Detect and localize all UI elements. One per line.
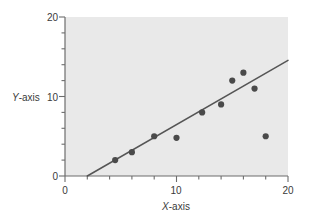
plot-area-background	[65, 17, 288, 176]
x-axis-ticks	[65, 176, 288, 182]
data-point	[240, 70, 246, 76]
chart-canvas: 20 10 0 0 10 20 Y-axis X-axis	[0, 0, 309, 221]
data-point	[199, 109, 205, 115]
data-point	[218, 101, 224, 107]
data-point	[229, 78, 235, 84]
y-tick-label-mid: 10	[47, 92, 59, 103]
data-point	[151, 133, 157, 139]
y-axis-title: Y-axis	[12, 92, 40, 103]
y-tick-label-top: 20	[47, 12, 59, 23]
data-point	[251, 85, 257, 91]
x-tick-label-mid: 10	[170, 185, 182, 196]
data-point	[263, 133, 269, 139]
scatter-chart-figure: 20 10 0 0 10 20 Y-axis X-axis	[0, 0, 309, 221]
x-tick-label-right: 20	[282, 185, 294, 196]
data-point	[112, 157, 118, 163]
x-tick-label-left: 0	[62, 185, 68, 196]
y-tick-label-bottom: 0	[52, 171, 58, 182]
x-axis-title: X-axis	[161, 201, 190, 212]
data-point	[173, 135, 179, 141]
data-point	[129, 149, 135, 155]
y-axis-ticks	[59, 17, 65, 176]
y-axis-title-suffix: -axis	[19, 92, 40, 103]
x-axis-title-suffix: -axis	[169, 201, 190, 212]
